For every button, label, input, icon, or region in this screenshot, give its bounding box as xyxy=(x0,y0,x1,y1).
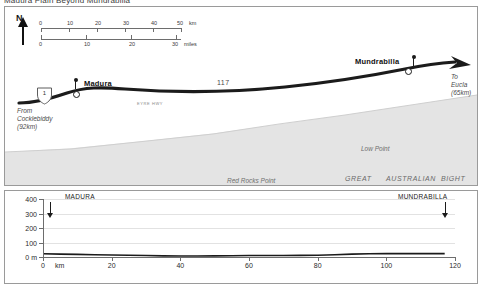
y-tick-label-300: 300 xyxy=(25,210,37,217)
highway-number-label: 117 xyxy=(217,79,230,86)
x-tick-120 xyxy=(455,257,456,261)
town-mundrabilla-dot xyxy=(405,68,412,75)
x-tick-100 xyxy=(386,257,387,261)
x-axis-unit-label: km xyxy=(55,262,64,269)
label-bight: BIGHT xyxy=(441,175,465,182)
x-tick-80 xyxy=(318,257,319,261)
x-tick-label-100: 100 xyxy=(380,262,392,269)
gridline-y-200 xyxy=(43,228,455,229)
highway-shield-icon: 1 xyxy=(36,86,53,105)
label-red-rocks-point: Red Rocks Point xyxy=(227,177,275,184)
x-tick-label-80: 80 xyxy=(314,262,322,269)
destination-note: To Eucla (65km) xyxy=(451,73,471,97)
label-low-point: Low Point xyxy=(361,145,390,152)
gridline-y-300 xyxy=(43,214,455,215)
profile-marker-arrow-icon xyxy=(50,202,51,213)
elevation-plot-area: 0 m100200300400020406080100120kmMADURAMU… xyxy=(43,199,455,257)
highway-shield-number: 1 xyxy=(36,90,53,96)
x-tick-20 xyxy=(112,257,113,261)
destination-note-line-1: To xyxy=(451,73,471,81)
x-tick-label-60: 60 xyxy=(245,262,253,269)
figure-root: Madura Plain Beyond Mundrabilla N 0 10 xyxy=(0,0,480,286)
gridline-y-100 xyxy=(43,243,455,244)
x-tick-0 xyxy=(43,257,44,261)
y-tick-label-100: 100 xyxy=(25,239,37,246)
town-mundrabilla-label: Mundrabilla xyxy=(355,57,399,66)
origin-note-line-3: (92km) xyxy=(17,123,52,131)
label-australian: AUSTRALIAN xyxy=(386,175,436,182)
y-tick-label-0: 0 m xyxy=(25,254,37,261)
y-tick-label-200: 200 xyxy=(25,225,37,232)
map-panel: N 0 10 20 30 40 50 km 0 xyxy=(4,6,478,186)
x-tick-40 xyxy=(180,257,181,261)
highway-name-label: EYRE HWY xyxy=(137,101,163,106)
destination-note-line-2: Eucla xyxy=(451,81,471,89)
y-axis xyxy=(43,199,44,257)
origin-note-line-1: From xyxy=(17,107,52,115)
town-madura-pin-icon xyxy=(75,81,76,89)
town-mundrabilla-pin-icon xyxy=(413,58,414,66)
x-tick-label-20: 20 xyxy=(108,262,116,269)
document-title: Madura Plain Beyond Mundrabilla xyxy=(4,0,130,5)
profile-marker-label: MADURA xyxy=(65,193,95,200)
origin-note-line-2: Cocklebiddy xyxy=(17,115,52,123)
x-tick-label-40: 40 xyxy=(176,262,184,269)
x-tick-60 xyxy=(249,257,250,261)
y-tick-label-400: 400 xyxy=(25,196,37,203)
gridline-y-400 xyxy=(43,199,455,200)
origin-note: From Cocklebiddy (92km) xyxy=(17,107,52,131)
profile-marker-label: MUNDRABILLA xyxy=(398,193,448,200)
town-madura-dot xyxy=(73,91,80,98)
label-great: GREAT xyxy=(345,175,372,182)
profile-marker-arrow-icon xyxy=(445,202,446,213)
town-madura-label: Madura xyxy=(84,79,112,88)
x-tick-label-0: 0 xyxy=(41,262,45,269)
elevation-profile-panel: 0 m100200300400020406080100120kmMADURAMU… xyxy=(4,190,478,284)
destination-note-line-3: (65km) xyxy=(451,89,471,97)
x-tick-label-120: 120 xyxy=(449,262,461,269)
